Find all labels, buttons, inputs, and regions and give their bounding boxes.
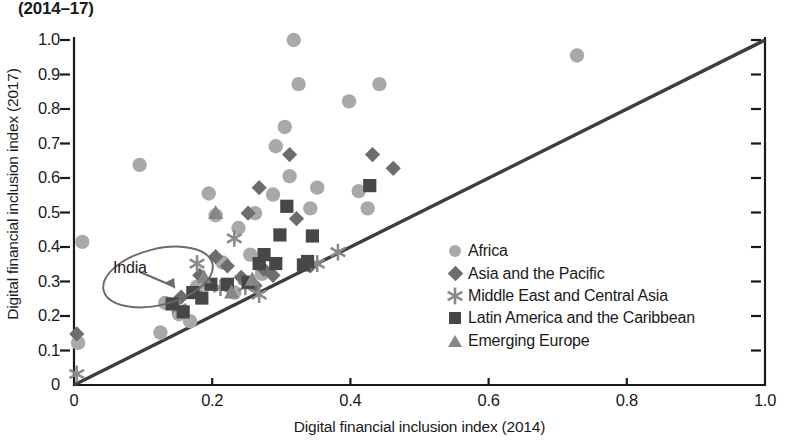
data-point [303, 201, 317, 215]
y-tick-label: 0.4 [0, 238, 60, 255]
data-point [153, 325, 167, 339]
data-point [278, 120, 292, 134]
data-point [363, 179, 376, 192]
data-point [301, 255, 314, 268]
y-tick-label: 0.1 [0, 342, 60, 359]
diamond-icon [444, 264, 466, 284]
data-point [280, 200, 293, 213]
y-tick-label: 0.2 [0, 307, 60, 324]
legend-item-latin-america-and-the-caribbean[interactable]: Latin America and the Caribbean [444, 307, 764, 329]
data-point [310, 180, 324, 194]
data-point [282, 147, 297, 162]
asterisk-glyph [448, 288, 463, 305]
x-tick-label: 0.2 [190, 392, 234, 409]
square-icon-glyph [449, 312, 461, 324]
circle-icon [444, 241, 466, 261]
data-point [266, 187, 280, 201]
x-tick-label: 0 [52, 392, 96, 409]
data-point [289, 211, 304, 226]
data-point [386, 161, 401, 176]
diamond-icon-glyph [447, 266, 463, 282]
data-point [273, 228, 286, 241]
y-tick-label: 0.3 [0, 273, 60, 290]
series-middle-east-and-central-asia [69, 230, 345, 382]
x-axis-label: Digital financial inclusion index (2014) [74, 418, 765, 436]
legend-item-middle-east-and-central-asia[interactable]: Middle East and Central Asia [444, 285, 764, 307]
y-tick-label: 0 [0, 376, 60, 393]
data-point [257, 248, 270, 261]
y-tick-label: 0.9 [0, 66, 60, 83]
data-point [269, 257, 282, 270]
data-point [252, 180, 267, 195]
data-point [342, 94, 356, 108]
triangle-icon-glyph [448, 335, 462, 347]
chart-legend: AfricaAsia and the PacificMiddle East an… [444, 240, 764, 352]
x-tick-label: 1.0 [743, 392, 785, 409]
data-point [195, 291, 208, 304]
data-point [282, 169, 296, 183]
y-tick-label: 1.0 [0, 31, 60, 48]
data-point [306, 229, 319, 242]
legend-label: Africa [466, 242, 508, 260]
legend-label: Middle East and Central Asia [466, 287, 668, 305]
x-tick-label: 0.6 [467, 392, 511, 409]
triangle-icon [444, 331, 466, 351]
square-icon [444, 308, 466, 328]
legend-label: Asia and the Pacific [466, 265, 605, 283]
data-point [372, 77, 386, 91]
legend-label: Latin America and the Caribbean [466, 309, 695, 327]
legend-item-africa[interactable]: Africa [444, 240, 764, 262]
x-tick-label: 0.4 [328, 392, 372, 409]
y-tick-label: 0.8 [0, 100, 60, 117]
data-point [190, 255, 205, 272]
circle-icon-glyph [449, 245, 461, 257]
data-point [360, 201, 374, 215]
y-tick-label: 0.7 [0, 135, 60, 152]
data-point [177, 305, 190, 318]
y-tick-label: 0.6 [0, 169, 60, 186]
legend-item-emerging-europe[interactable]: Emerging Europe [444, 330, 764, 352]
y-tick-label: 0.5 [0, 204, 60, 221]
data-point [291, 77, 305, 91]
data-point [202, 186, 216, 200]
plot-canvas [0, 0, 785, 444]
data-point [132, 158, 146, 172]
x-tick-label: 0.8 [605, 392, 649, 409]
data-point [365, 147, 380, 162]
data-point [75, 235, 89, 249]
india-annotation-label: India [113, 259, 147, 277]
data-point [269, 139, 283, 153]
chart-title: (2014–17) [18, 0, 94, 19]
asterisk-icon [444, 286, 466, 306]
chart-figure: (2014–17) Digital financial inclusion in… [0, 0, 785, 444]
legend-item-asia-and-the-pacific[interactable]: Asia and the Pacific [444, 262, 764, 284]
data-point [287, 33, 301, 47]
data-point [570, 48, 584, 62]
legend-label: Emerging Europe [466, 332, 590, 350]
